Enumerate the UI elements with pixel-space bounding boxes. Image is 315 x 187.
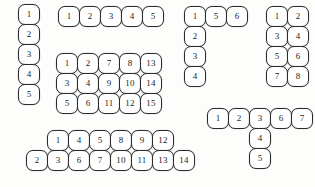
cell[interactable]: 6 <box>270 108 292 129</box>
cell[interactable]: 5 <box>18 84 40 105</box>
cell-label: 12 <box>125 99 134 108</box>
shapes-canvas: 1234512345127813349101456111215156234123… <box>0 0 315 187</box>
cell[interactable]: 1 <box>18 4 40 25</box>
cell[interactable]: 3 <box>266 26 288 47</box>
cell[interactable]: 10 <box>119 73 141 94</box>
cell-label: 1 <box>65 59 70 68</box>
cell[interactable]: 3 <box>249 108 271 129</box>
cell-label: 6 <box>235 12 240 21</box>
cell[interactable]: 2 <box>18 24 40 45</box>
cell-label: 2 <box>237 114 242 123</box>
cell-label: 5 <box>214 12 219 21</box>
cell[interactable]: 3 <box>47 150 69 171</box>
cell-label: 11 <box>137 156 146 165</box>
cell[interactable]: 2 <box>79 6 101 27</box>
cell-label: 13 <box>146 59 155 68</box>
cell[interactable]: 9 <box>98 73 120 94</box>
cell[interactable]: 4 <box>68 130 90 151</box>
cell-label: 7 <box>98 156 103 165</box>
cell-label: 1 <box>27 10 32 19</box>
cell-label: 10 <box>116 156 125 165</box>
cell-label: 8 <box>128 59 133 68</box>
cell[interactable]: 12 <box>152 130 174 151</box>
cell-label: 13 <box>158 156 167 165</box>
cell[interactable]: 11 <box>131 150 153 171</box>
cell[interactable]: 4 <box>287 26 309 47</box>
cell-label: 1 <box>193 12 198 21</box>
cell[interactable]: 1 <box>184 6 206 27</box>
cell[interactable]: 2 <box>287 6 309 27</box>
cell[interactable]: 11 <box>98 93 120 114</box>
cell[interactable]: 4 <box>77 73 99 94</box>
cell-label: 1 <box>216 114 221 123</box>
cell[interactable]: 6 <box>68 150 90 171</box>
cell[interactable]: 10 <box>110 150 132 171</box>
vertical-column-1x5: 12345 <box>18 4 41 106</box>
cell-label: 5 <box>98 136 103 145</box>
cell[interactable]: 8 <box>287 66 309 87</box>
cell[interactable]: 9 <box>131 130 153 151</box>
cell-label: 6 <box>86 99 91 108</box>
cell[interactable]: 7 <box>266 66 288 87</box>
cell-label: 4 <box>27 70 32 79</box>
cell[interactable]: 3 <box>100 6 122 27</box>
cell[interactable]: 8 <box>110 130 132 151</box>
cell-label: 4 <box>258 134 263 143</box>
cell[interactable]: 1 <box>58 6 80 27</box>
cell-label: 14 <box>179 156 188 165</box>
cell[interactable]: 4 <box>121 6 143 27</box>
cell-label: 7 <box>107 59 112 68</box>
cell-label: 3 <box>193 52 198 61</box>
cell-label: 4 <box>130 12 135 21</box>
cell[interactable]: 6 <box>287 46 309 67</box>
cell-label: 6 <box>279 114 284 123</box>
cell-label: 2 <box>35 156 40 165</box>
cell-label: 4 <box>193 72 198 81</box>
cell[interactable]: 2 <box>184 26 206 47</box>
cell[interactable]: 14 <box>173 150 195 171</box>
cell[interactable]: 3 <box>184 46 206 67</box>
cell[interactable]: 4 <box>18 64 40 85</box>
cell-label: 2 <box>86 59 91 68</box>
cell-label: 9 <box>107 79 112 88</box>
cell[interactable]: 8 <box>119 53 141 74</box>
cell-label: 2 <box>296 12 301 21</box>
cell[interactable]: 5 <box>266 46 288 67</box>
cell[interactable]: 5 <box>142 6 164 27</box>
cell-label: 6 <box>77 156 82 165</box>
cell[interactable]: 1 <box>56 53 78 74</box>
cell-label: 11 <box>104 99 113 108</box>
cell[interactable]: 6 <box>77 93 99 114</box>
cell[interactable]: 5 <box>249 148 271 169</box>
cell[interactable]: 7 <box>89 150 111 171</box>
cell-label: 2 <box>193 32 198 41</box>
cell[interactable]: 5 <box>205 6 227 27</box>
cell-label: 15 <box>146 99 155 108</box>
cell[interactable]: 7 <box>291 108 313 129</box>
cell[interactable]: 12 <box>119 93 141 114</box>
cell[interactable]: 1 <box>207 108 229 129</box>
offset-two-row-strip-14-cells: 1458912236710111314 <box>26 130 196 172</box>
cell[interactable]: 3 <box>18 44 40 65</box>
cell[interactable]: 13 <box>152 150 174 171</box>
cell[interactable]: 5 <box>56 93 78 114</box>
cell[interactable]: 1 <box>47 130 69 151</box>
cell[interactable]: 2 <box>77 53 99 74</box>
cell[interactable]: 6 <box>226 6 248 27</box>
cell[interactable]: 15 <box>140 93 162 114</box>
cell[interactable]: 2 <box>228 108 250 129</box>
cell-label: 8 <box>119 136 124 145</box>
cell[interactable]: 2 <box>26 150 48 171</box>
cell[interactable]: 1 <box>266 6 288 27</box>
cell[interactable]: 7 <box>98 53 120 74</box>
cell[interactable]: 14 <box>140 73 162 94</box>
cell[interactable]: 5 <box>89 130 111 151</box>
cell-label: 4 <box>296 32 301 41</box>
cell[interactable]: 13 <box>140 53 162 74</box>
cell-label: 5 <box>275 52 280 61</box>
cell[interactable]: 4 <box>184 66 206 87</box>
cell[interactable]: 4 <box>249 128 271 149</box>
cell-label: 5 <box>151 12 156 21</box>
cell-label: 3 <box>56 156 61 165</box>
cell[interactable]: 3 <box>56 73 78 94</box>
